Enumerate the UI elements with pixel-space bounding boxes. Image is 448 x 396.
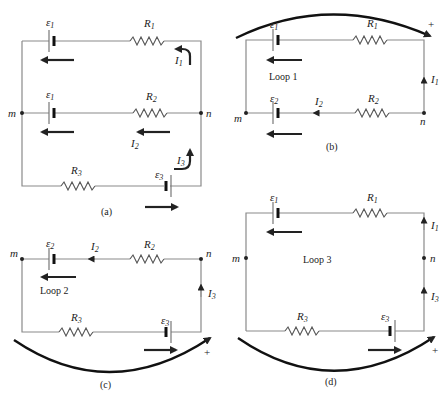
label-i3: I3 <box>207 287 216 301</box>
panel-b: ε1 R1 + Loop 1 I1 ε2 I2 R2 m n (b) <box>234 14 439 153</box>
resistor-r1 <box>353 209 387 217</box>
loop-1-label: Loop 1 <box>269 71 298 82</box>
label-emf1: ε1 <box>46 16 54 30</box>
plus-sign: + <box>204 346 210 358</box>
loop-direction-curve <box>236 14 430 38</box>
resistor-r2 <box>355 109 389 117</box>
node-n-dot <box>199 257 203 261</box>
label-r3: R3 <box>70 164 82 178</box>
label-i3: I3 <box>430 290 439 304</box>
resistor-r2 <box>130 255 164 263</box>
label-i1: I1 <box>430 219 439 233</box>
label-i3: I3 <box>176 154 185 168</box>
label-node-n: n <box>430 252 436 264</box>
label-node-n: n <box>420 115 426 127</box>
node-m-dot <box>20 257 24 261</box>
label-r1: R1 <box>366 191 378 205</box>
loop-3-label: Loop 3 <box>303 254 332 265</box>
caption-c: (c) <box>100 379 111 391</box>
label-i1: I1 <box>430 73 439 87</box>
plus-sign: + <box>428 18 434 30</box>
label-i1: I1 <box>174 54 183 68</box>
label-r3: R3 <box>70 311 82 325</box>
node-m-dot <box>20 111 24 115</box>
label-i2: I2 <box>314 95 323 109</box>
label-emf3: ε3 <box>161 314 169 328</box>
label-r2: R2 <box>367 92 379 106</box>
label-emf3: ε3 <box>381 310 389 324</box>
label-r3: R3 <box>296 310 308 324</box>
plus-sign: + <box>432 344 438 356</box>
caption-a: (a) <box>101 206 112 218</box>
label-r2: R2 <box>145 90 157 104</box>
loop-2-label: Loop 2 <box>40 285 69 296</box>
label-emf2: ε2 <box>270 92 278 106</box>
caption-d: (d) <box>325 376 337 388</box>
label-node-m: m <box>234 112 242 124</box>
node-n-dot <box>199 111 203 115</box>
resistor-r2 <box>133 109 167 117</box>
label-r2: R2 <box>143 238 155 252</box>
loop-direction-curve <box>238 337 434 371</box>
resistor-r3 <box>61 182 95 190</box>
label-emf1: ε1 <box>270 18 278 32</box>
kirchhoff-circuit-diagram: ε1 R1 I1 ε1 R2 I2 I3 R3 ε3 m n (a) ε1 R1… <box>0 0 448 396</box>
panel-d-loop-wire <box>246 213 424 331</box>
loop-direction-curve <box>14 338 210 372</box>
panel-a: ε1 R1 I1 ε1 R2 I2 I3 R3 ε3 m n (a) <box>8 16 212 218</box>
node-n-dot <box>422 256 426 260</box>
resistor-r1 <box>353 36 387 44</box>
node-m-dot <box>244 111 248 115</box>
caption-b: (b) <box>326 141 338 153</box>
label-emf2: ε2 <box>46 237 54 251</box>
label-i2: I2 <box>90 240 99 254</box>
label-node-m: m <box>10 247 18 259</box>
resistor-r1 <box>130 37 164 45</box>
resistor-r3 <box>285 327 319 335</box>
label-node-m: m <box>8 107 16 119</box>
panel-c: ε2 I2 R2 m n Loop 2 I3 R3 ε3 + (c) <box>10 237 216 391</box>
resistor-r3 <box>59 328 93 336</box>
label-emf1: ε1 <box>270 191 278 205</box>
label-emf1-mid: ε1 <box>46 88 54 102</box>
label-i2: I2 <box>130 137 139 151</box>
label-r1: R1 <box>143 17 155 31</box>
label-node-n: n <box>206 247 212 259</box>
node-m-dot <box>244 256 248 260</box>
label-node-m: m <box>232 252 240 264</box>
label-node-n: n <box>206 107 212 119</box>
label-emf3: ε3 <box>155 168 163 182</box>
panel-d: ε1 R1 I1 m Loop 3 n I3 R3 ε3 + (d) <box>232 191 439 388</box>
